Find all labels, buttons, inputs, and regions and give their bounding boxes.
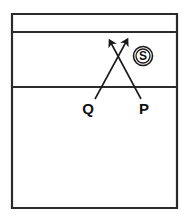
ray-q-label: Q — [82, 100, 94, 117]
physics-ray-diagram: S Q P — [0, 0, 189, 221]
source-s-label: S — [139, 49, 147, 63]
outer-rectangle — [12, 14, 177, 208]
ray-p-label: P — [139, 100, 149, 117]
ray-q-line — [95, 42, 126, 99]
diagram-canvas: S Q P — [0, 0, 189, 221]
